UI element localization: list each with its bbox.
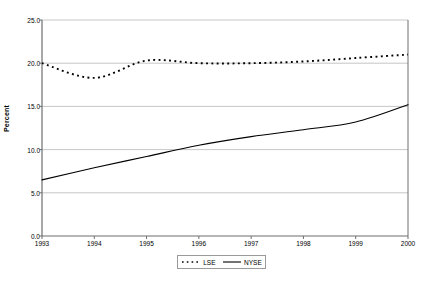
x-tick-label: 1997	[231, 240, 271, 248]
x-tick-label: 1996	[179, 240, 219, 248]
line-chart: Percent 0.05.010.015.020.025.0 199319941…	[0, 0, 431, 281]
legend-label-lse: LSE	[203, 259, 215, 266]
series-line-lse	[42, 55, 408, 78]
plot-frame	[39, 20, 408, 236]
x-tick-label: 1999	[336, 240, 376, 248]
chart-legend: LSE NYSE	[177, 255, 266, 269]
solid-line-icon	[222, 259, 242, 265]
x-tick-label: 1998	[283, 240, 323, 248]
legend-label-nyse: NYSE	[244, 259, 262, 266]
x-axis-tick-labels: 19931994199519961997199819992000	[0, 240, 431, 252]
dotted-line-icon	[181, 259, 201, 265]
plot-area	[0, 0, 431, 281]
x-tick-label: 1993	[22, 240, 62, 248]
legend-entry-nyse: NYSE	[222, 259, 262, 266]
x-tick-label: 1995	[127, 240, 167, 248]
x-tick-label: 1994	[74, 240, 114, 248]
series-line-nyse	[42, 105, 408, 180]
data-series	[42, 55, 408, 180]
legend-entry-lse: LSE	[181, 259, 215, 266]
x-tick-label: 2000	[388, 240, 428, 248]
